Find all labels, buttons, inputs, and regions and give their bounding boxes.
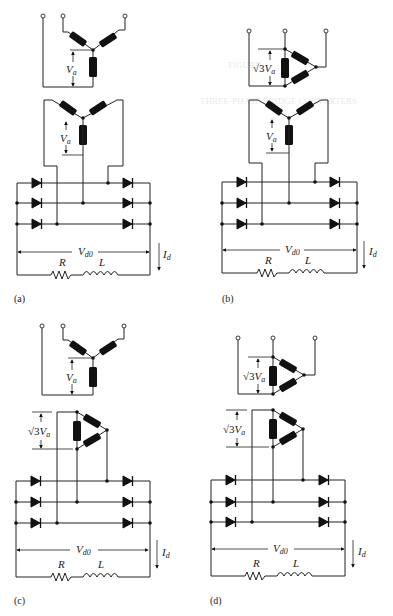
svg-text:R: R [264,254,272,266]
primary-wye-winding: Va [40,324,126,395]
svg-text:Vd0: Vd0 [285,243,300,257]
svg-text:L: L [304,254,311,266]
primary-wye-winding: Va [41,14,127,87]
terminal-icon [123,14,127,18]
svg-text:√3Va: √3Va [28,425,50,439]
winding-coil-icon [89,57,97,77]
svg-text:L: L [97,558,104,570]
svg-text:Vd0: Vd0 [76,543,91,557]
svg-text:R: R [252,557,260,569]
primary-delta-winding: √3Va [247,29,328,88]
svg-text:√3Va: √3Va [243,370,265,384]
svg-text:√3Va: √3Va [253,62,275,76]
svg-text:Id: Id [357,545,367,559]
svg-text:Va: Va [60,132,71,146]
svg-text:R: R [57,558,65,570]
secondary-delta-winding: √3Va [28,410,109,502]
svg-text:L: L [292,557,299,569]
svg-text:Vd0: Vd0 [78,245,93,259]
svg-text:R: R [58,256,66,268]
caption-a: (a) [14,293,25,305]
secondary-wye-winding: Va [249,100,328,224]
diode-bridge [14,476,152,577]
secondary-delta-winding: √3Va [223,408,305,502]
converter-transformer-diagram: Va Va [0,0,393,616]
svg-text:Va: Va [266,130,277,144]
caption-b: (b) [222,293,234,305]
secondary-wye-winding: Va [44,100,123,224]
svg-text:Id: Id [368,245,378,259]
terminal-icon [41,14,45,18]
svg-text:Id: Id [162,248,172,262]
diode-bridge [209,475,347,576]
svg-text:Va: Va [66,371,77,385]
svg-text:Vd0: Vd0 [273,542,288,556]
panel-c: Va √3Va [14,324,171,607]
svg-text:L: L [98,256,105,268]
caption-d: (d) [210,595,222,607]
caption-c: (c) [14,595,25,607]
svg-text:Id: Id [161,546,171,560]
dc-load: Vd0 Id R L [211,540,367,580]
dc-load: Vd0 Id R L [16,540,171,581]
primary-delta-winding: √3Va [236,336,317,396]
dc-load: Vd0 Id R L [17,243,172,279]
panel-d: √3Va √3Va [209,336,366,607]
panel-a: Va Va [14,14,172,305]
dc-load: Vd0 Id R L [222,241,378,277]
terminal-icon [61,14,65,18]
va-label: Va [66,63,77,77]
svg-text:√3Va: √3Va [223,423,245,437]
panel-b: √3Va Va [220,29,377,305]
